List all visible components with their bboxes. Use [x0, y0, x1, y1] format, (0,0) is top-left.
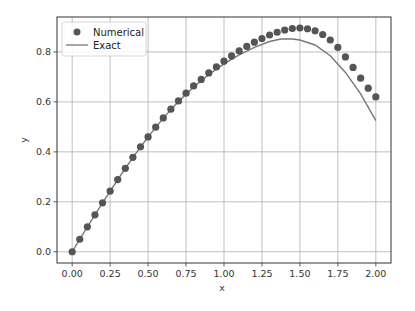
numerical-point	[190, 82, 197, 89]
x-axis-label: x	[219, 282, 225, 293]
x-tick-label: 1.00	[213, 268, 234, 279]
x-tick-label: 0.25	[100, 268, 121, 279]
numerical-point	[69, 248, 76, 255]
numerical-point	[334, 44, 341, 51]
numerical-point	[99, 199, 106, 206]
x-tick-label: 1.75	[327, 268, 348, 279]
numerical-point	[236, 47, 243, 54]
chart: 0.000.250.500.751.001.251.501.752.00 0.0…	[0, 0, 415, 311]
legend-label-exact: Exact	[93, 40, 121, 51]
y-tick-label: 0.6	[36, 96, 51, 107]
x-tick-label: 2.00	[365, 268, 386, 279]
numerical-point	[220, 58, 227, 65]
numerical-point	[84, 223, 91, 230]
numerical-point	[304, 25, 311, 32]
numerical-point	[91, 211, 98, 218]
x-tick-label: 0.00	[62, 268, 83, 279]
legend-label-numerical: Numerical	[93, 27, 144, 38]
numerical-point	[144, 133, 151, 140]
numerical-point	[281, 26, 288, 33]
numerical-point	[213, 63, 220, 70]
numerical-point	[114, 176, 121, 183]
numerical-point	[167, 106, 174, 113]
numerical-point	[228, 52, 235, 59]
numerical-point	[160, 114, 167, 121]
numerical-point	[349, 64, 356, 71]
numerical-point	[266, 31, 273, 38]
numerical-point	[152, 124, 159, 131]
y-tick-label: 0.2	[36, 196, 51, 207]
numerical-point	[289, 25, 296, 32]
numerical-point	[205, 69, 212, 76]
legend: Numerical Exact	[62, 22, 146, 56]
numerical-point	[319, 31, 326, 38]
numerical-point	[129, 154, 136, 161]
x-tick-label: 1.50	[289, 268, 310, 279]
x-axis: 0.000.250.500.751.001.251.501.752.00	[62, 263, 387, 279]
numerical-point	[342, 53, 349, 60]
numerical-point	[372, 93, 379, 100]
y-tick-label: 0.8	[36, 46, 51, 57]
numerical-point	[327, 36, 334, 43]
x-tick-label: 1.25	[251, 268, 272, 279]
y-tick-label: 0.4	[36, 146, 51, 157]
x-tick-label: 0.50	[138, 268, 159, 279]
numerical-point	[122, 165, 129, 172]
numerical-point	[76, 236, 83, 243]
numerical-point	[243, 43, 250, 50]
numerical-point	[311, 27, 318, 34]
numerical-point	[107, 187, 114, 194]
numerical-point	[182, 90, 189, 97]
numerical-point	[198, 76, 205, 83]
numerical-point	[251, 39, 258, 46]
numerical-point	[357, 75, 364, 82]
y-tick-label: 0.0	[36, 246, 51, 257]
y-axis-label: y	[18, 137, 29, 143]
numerical-point	[137, 143, 144, 150]
numerical-point	[296, 24, 303, 31]
numerical-point	[258, 35, 265, 42]
numerical-point	[175, 97, 182, 104]
y-axis: 0.00.20.40.60.8	[36, 46, 57, 257]
x-tick-label: 0.75	[175, 268, 196, 279]
numerical-point	[274, 29, 281, 36]
legend-marker-numerical	[74, 29, 81, 36]
numerical-point	[365, 85, 372, 92]
